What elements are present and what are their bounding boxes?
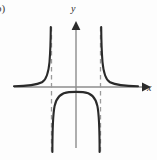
y-axis-label: y xyxy=(71,4,75,14)
y-axis-arrowhead xyxy=(72,21,81,30)
curve-left-branch xyxy=(14,27,51,86)
graph-figure: b) y x xyxy=(0,0,157,160)
x-axis-label: x xyxy=(147,83,151,93)
graph-canvas xyxy=(0,0,157,160)
curve-right-branch xyxy=(101,27,138,86)
